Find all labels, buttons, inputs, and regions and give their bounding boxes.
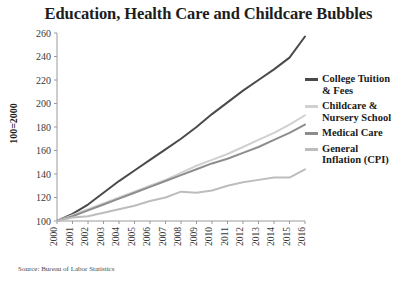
x-tick-label: 2016 xyxy=(297,227,307,246)
x-tick-label: 2014 xyxy=(266,227,276,246)
y-tick-label: 160 xyxy=(36,145,51,156)
x-tick-label: 2000 xyxy=(49,227,59,246)
legend-color-swatch xyxy=(305,148,318,151)
x-tick-label: 2010 xyxy=(204,227,214,246)
y-tick-label: 260 xyxy=(36,28,51,39)
x-tick-label: 2013 xyxy=(251,227,261,246)
y-tick-label: 220 xyxy=(36,75,51,86)
x-tick-label: 2008 xyxy=(173,227,183,246)
x-tick-label: 2012 xyxy=(235,227,245,246)
x-axis-ticks: 2000200120022003200420052006200720082009… xyxy=(49,221,307,246)
x-tick-label: 2007 xyxy=(158,227,168,246)
legend-item-label: College Tuition & Fees xyxy=(322,73,390,96)
legend-item-label: General Inflation (CPI) xyxy=(322,143,389,166)
source-note: Source: Bureau of Labor Statistics xyxy=(18,265,114,273)
legend-item[interactable]: Childcare & Nursery School xyxy=(305,100,417,123)
y-tick-label: 140 xyxy=(36,169,51,180)
legend-item-label: Medical Care xyxy=(322,127,383,139)
legend-item-label: Childcare & Nursery School xyxy=(322,100,391,123)
series-line xyxy=(57,37,305,221)
x-tick-label: 2003 xyxy=(96,227,106,246)
x-tick-label: 2004 xyxy=(111,227,121,246)
x-tick-label: 2006 xyxy=(142,227,152,246)
x-tick-label: 2001 xyxy=(65,227,75,246)
legend-item[interactable]: General Inflation (CPI) xyxy=(305,143,417,166)
series-line xyxy=(57,115,305,221)
legend: College Tuition & FeesChildcare & Nurser… xyxy=(305,73,417,170)
x-tick-label: 2015 xyxy=(282,227,292,246)
x-tick-label: 2009 xyxy=(189,227,199,246)
legend-color-swatch xyxy=(305,132,318,135)
y-tick-label: 120 xyxy=(36,192,51,203)
series-line xyxy=(57,169,305,221)
x-tick-label: 2002 xyxy=(80,227,90,246)
legend-color-swatch xyxy=(305,78,318,81)
y-axis-ticks: 100120140160180200220240260 xyxy=(36,28,57,227)
x-tick-label: 2011 xyxy=(220,227,230,246)
chart-figure: Education, Health Care and Childcare Bub… xyxy=(0,0,417,286)
y-tick-label: 180 xyxy=(36,122,51,133)
legend-color-swatch xyxy=(305,105,318,108)
legend-item[interactable]: College Tuition & Fees xyxy=(305,73,417,96)
legend-item[interactable]: Medical Care xyxy=(305,127,417,139)
x-tick-label: 2005 xyxy=(127,227,137,246)
y-tick-label: 100 xyxy=(36,216,51,227)
y-tick-label: 240 xyxy=(36,51,51,62)
y-tick-label: 200 xyxy=(36,98,51,109)
axis-lines xyxy=(57,33,305,221)
data-series-group xyxy=(57,37,305,221)
